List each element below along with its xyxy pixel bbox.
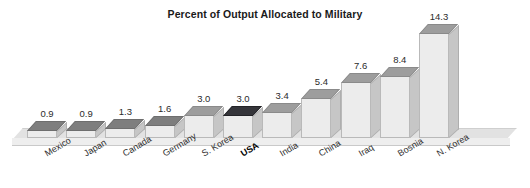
bar-front-face <box>301 99 331 138</box>
category-label-usa: USA <box>239 150 244 159</box>
bar-mexico <box>27 121 57 138</box>
category-label-china: China <box>317 150 322 159</box>
bar-canada <box>105 119 135 138</box>
value-label: 3.0 <box>223 93 263 104</box>
category-label-canada: Canada <box>121 150 126 159</box>
bar-india <box>262 103 292 138</box>
value-label: 3.4 <box>262 90 302 101</box>
value-label: 5.4 <box>301 76 341 87</box>
bar-side-face <box>449 25 459 138</box>
bar-front-face <box>105 129 135 138</box>
bar-china <box>301 89 331 138</box>
category-label-mexico: Mexico <box>43 150 48 159</box>
value-label: 7.6 <box>341 60 381 71</box>
value-label: 14.3 <box>419 11 459 22</box>
bar-front-face <box>27 131 57 138</box>
value-label: 0.9 <box>66 108 106 119</box>
value-label: 8.4 <box>380 54 420 65</box>
bar-front-face <box>66 131 96 138</box>
category-label-bosnia: Bosnia <box>396 150 401 159</box>
bar-iraq <box>341 73 371 138</box>
category-label-iraq: Iraq <box>357 150 362 159</box>
plot-area: 0.90.91.31.63.03.03.45.47.68.414.3 Mexic… <box>0 0 530 188</box>
bar-front-face <box>380 77 410 138</box>
bar-front-face <box>262 113 292 138</box>
bar-bosnia <box>380 67 410 138</box>
category-label-n-korea: N. Korea <box>435 150 440 159</box>
floor-platform-front <box>12 138 510 146</box>
value-label: 3.0 <box>184 93 224 104</box>
bar-chart: Percent of Output Allocated to Military … <box>0 0 530 188</box>
value-label: 1.3 <box>105 106 145 117</box>
category-label-japan: Japan <box>82 150 87 159</box>
bar-n-korea <box>419 24 449 138</box>
category-label-s-korea: S. Korea <box>200 150 205 159</box>
value-label: 1.6 <box>145 103 185 114</box>
value-label: 0.9 <box>27 108 67 119</box>
bar-front-face <box>341 83 371 138</box>
bar-japan <box>66 121 96 138</box>
category-label-germany: Germany <box>161 150 166 159</box>
category-label-india: India <box>278 150 283 159</box>
bar-front-face <box>419 34 449 138</box>
